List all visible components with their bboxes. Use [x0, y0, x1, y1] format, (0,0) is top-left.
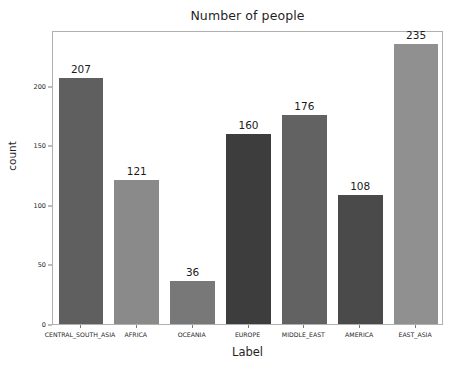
bar-value-label: 36: [170, 266, 215, 278]
bar-group[interactable]: 176: [282, 30, 327, 324]
x-tick-label-europe: EUROPE: [235, 331, 260, 338]
bar-europe[interactable]: [226, 134, 271, 324]
bar-central-south-asia[interactable]: [59, 78, 104, 324]
x-tick-mark: [80, 325, 81, 328]
bar-chart-figure: Number of people count 050100150200 2071…: [0, 0, 459, 375]
bar-group[interactable]: 36: [170, 30, 215, 324]
x-tick-mark: [359, 325, 360, 328]
x-tick-mark: [136, 325, 137, 328]
x-tick-label-central-south-asia: CENTRAL_SOUTH_ASIA: [45, 331, 116, 338]
x-tick-label-oceania: OCEANIA: [178, 331, 206, 338]
y-tick-label-50: 50: [38, 261, 46, 269]
bar-america[interactable]: [338, 195, 383, 324]
y-axis-tick-container: 050100150200: [0, 31, 52, 325]
y-tick-label-100: 100: [34, 202, 46, 210]
bar-group[interactable]: 235: [394, 30, 439, 324]
bar-value-label: 207: [59, 63, 104, 75]
bar-value-label: 176: [282, 100, 327, 112]
x-tick-mark: [248, 325, 249, 328]
x-tick-label-middle-east: MIDDLE_EAST: [282, 331, 325, 338]
bar-oceania[interactable]: [170, 281, 215, 324]
y-tick-label-200: 200: [34, 83, 46, 91]
bar-group[interactable]: 108: [338, 30, 383, 324]
y-tick-label-0: 0: [42, 321, 46, 329]
bar-east-asia[interactable]: [394, 44, 439, 324]
x-tick-mark: [192, 325, 193, 328]
bar-value-label: 121: [114, 165, 159, 177]
bar-middle-east[interactable]: [282, 115, 327, 324]
x-axis-tick-container: CENTRAL_SOUTH_ASIAAFRICAOCEANIAEUROPEMID…: [52, 325, 443, 347]
bar-group[interactable]: 207: [59, 30, 104, 324]
x-tick-mark: [415, 325, 416, 328]
bar-value-label: 160: [226, 119, 271, 131]
y-tick-label-150: 150: [34, 142, 46, 150]
chart-title: Number of people: [52, 8, 443, 23]
bar-value-label: 235: [394, 29, 439, 41]
bar-group[interactable]: 121: [114, 30, 159, 324]
x-tick-label-america: AMERICA: [345, 331, 373, 338]
x-axis-label: Label: [52, 345, 443, 359]
bars-layer: 20712136160176108235: [53, 32, 442, 324]
bar-value-label: 108: [338, 180, 383, 192]
x-tick-label-africa: AFRICA: [125, 331, 147, 338]
bar-group[interactable]: 160: [226, 30, 271, 324]
plot-area: 20712136160176108235: [52, 31, 443, 325]
bar-africa[interactable]: [114, 180, 159, 324]
x-tick-mark: [303, 325, 304, 328]
x-tick-label-east-asia: EAST_ASIA: [398, 331, 431, 338]
